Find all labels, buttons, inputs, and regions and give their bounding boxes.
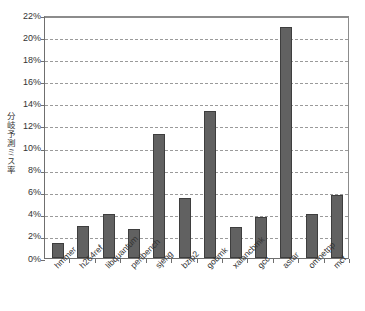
y-axis-tick-label: 14% xyxy=(14,100,41,109)
bar-chart-figure: 分岐予測ミス率 0%2%4%6%8%10%12%14%16%18%20%22% … xyxy=(0,0,365,311)
y-axis-tick-labels: 0%2%4%6%8%10%12%14%16%18%20%22% xyxy=(14,0,41,311)
y-axis-tick-label: 18% xyxy=(14,56,41,65)
x-axis-tick-labels: hmmerh264reflibquantumperlbenchsjengbzip… xyxy=(44,259,365,311)
bar-series xyxy=(45,17,348,258)
y-axis-tick-label: 0% xyxy=(14,255,41,264)
y-axis-tick-label: 12% xyxy=(14,122,41,131)
y-axis-tick-label: 16% xyxy=(14,78,41,87)
bar xyxy=(306,214,318,258)
y-axis-tick-label: 10% xyxy=(14,144,41,153)
bar xyxy=(103,214,115,258)
y-axis-title: 分岐予測ミス率 xyxy=(1,112,14,175)
y-axis-tick-label: 6% xyxy=(14,188,41,197)
y-axis-tick-label: 22% xyxy=(14,12,41,21)
bar xyxy=(204,111,216,258)
plot-area xyxy=(44,16,349,259)
y-axis-tick-label: 20% xyxy=(14,34,41,43)
y-axis-tick-label: 8% xyxy=(14,166,41,175)
y-axis-tick-label: 4% xyxy=(14,210,41,219)
y-axis-tick-label: 2% xyxy=(14,232,41,241)
bar xyxy=(280,27,292,258)
bar xyxy=(179,198,191,258)
